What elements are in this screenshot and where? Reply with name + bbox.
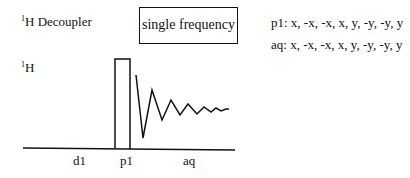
timeline-label-d1: d1 [73, 154, 86, 168]
fid-signal [136, 75, 229, 138]
timeline-label-aq: aq [183, 154, 195, 168]
pulse-p1-rectangle [115, 59, 130, 149]
time-axis-baseline [23, 148, 235, 150]
pulse-sequence-diagram [0, 0, 410, 178]
timeline-label-p1: p1 [120, 154, 133, 168]
